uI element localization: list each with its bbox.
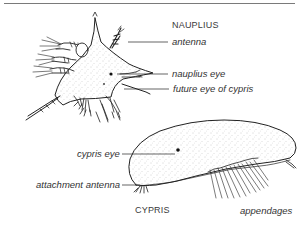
label-attachment-antenna: attachment antenna (36, 179, 120, 190)
nauplius-drawing (26, 12, 153, 122)
label-appendages: appendages (240, 205, 292, 216)
cypris-eye-dot (176, 148, 180, 152)
label-antenna: antenna (172, 36, 206, 47)
label-cypris-eye: cypris eye (77, 148, 120, 159)
cypris-title: CYPRIS (135, 205, 170, 216)
nauplius-title: NAUPLIUS (172, 20, 219, 31)
cypris-drawing (129, 120, 296, 198)
larval-stages-diagram: NAUPLIUS antenna nauplius eye future eye… (0, 0, 299, 228)
nauplius-eye-dot (109, 72, 112, 75)
cypris-shell (129, 120, 296, 186)
nauplius-body (55, 18, 153, 105)
label-future-eye-of-cypris: future eye of cypris (173, 83, 253, 94)
illustration (0, 0, 299, 228)
label-nauplius-eye: nauplius eye (172, 68, 225, 79)
